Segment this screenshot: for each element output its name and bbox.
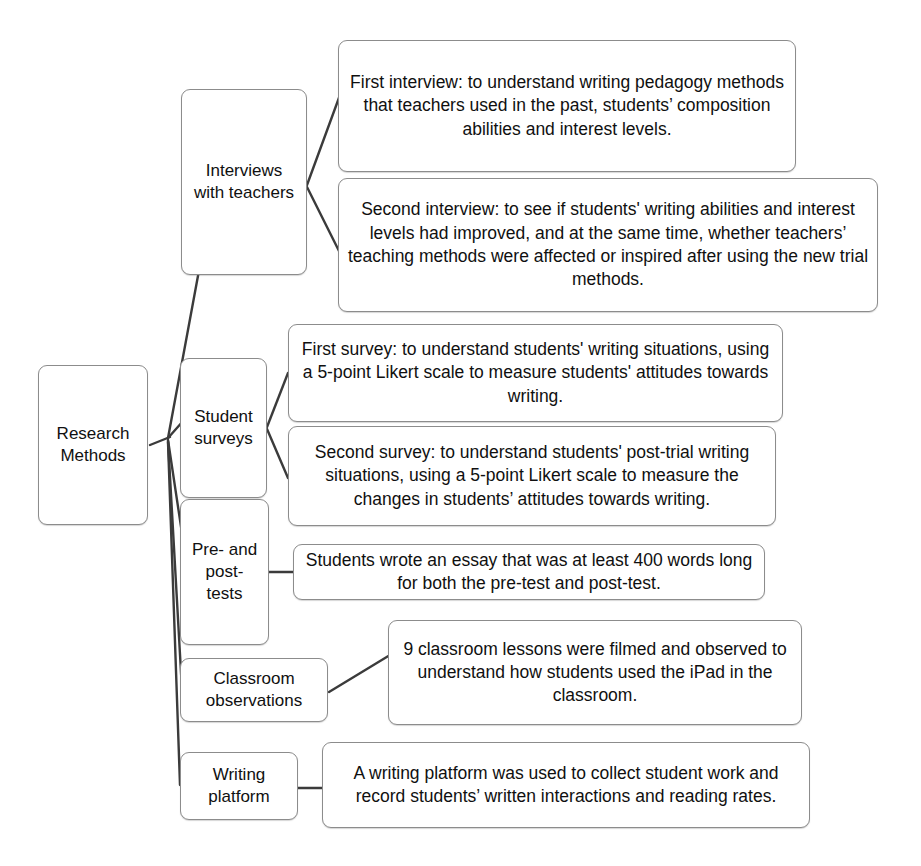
edge-interviews-to-second-interview [307, 187, 340, 253]
node-research-methods-label: Research Methods [46, 423, 140, 467]
node-second-survey[interactable]: Second survey: to understand students' p… [288, 426, 776, 526]
node-classroom-observations[interactable]: Classroom observations [180, 658, 328, 722]
node-first-interview-label: First interview: to understand writing p… [346, 71, 788, 141]
node-student-surveys-label: Student surveys [188, 406, 259, 450]
node-writing-platform-description-label: A writing platform was used to collect s… [330, 762, 802, 809]
node-pre-post-test-description[interactable]: Students wrote an essay that was at leas… [293, 544, 765, 600]
node-interviews-with-teachers[interactable]: Interviews with teachers [181, 89, 307, 275]
node-first-survey-label: First survey: to understand students' wr… [296, 338, 775, 408]
node-first-survey[interactable]: First survey: to understand students' wr… [288, 324, 783, 422]
edge-surveys-to-second-survey [267, 429, 288, 478]
node-pre-post-test-description-label: Students wrote an essay that was at leas… [301, 549, 757, 596]
edge-root-hub [150, 437, 170, 445]
research-methods-diagram: Research Methods Interviews with teacher… [0, 0, 921, 866]
node-classroom-observations-description[interactable]: 9 classroom lessons were filmed and obse… [388, 620, 802, 725]
node-classroom-observations-description-label: 9 classroom lessons were filmed and obse… [396, 638, 794, 708]
edge-root-to-writing-platform [168, 442, 180, 785]
node-interviews-with-teachers-label: Interviews with teachers [189, 160, 299, 204]
node-research-methods[interactable]: Research Methods [38, 365, 148, 525]
node-writing-platform-label: Writing platform [188, 764, 290, 808]
node-writing-platform[interactable]: Writing platform [180, 752, 298, 820]
edge-interviews-to-first-interview [307, 95, 340, 185]
node-pre-and-post-tests[interactable]: Pre- and post- tests [180, 499, 269, 645]
node-writing-platform-description[interactable]: A writing platform was used to collect s… [322, 742, 810, 828]
node-second-interview-label: Second interview: to see if students' wr… [346, 198, 870, 291]
node-second-interview[interactable]: Second interview: to see if students' wr… [338, 178, 878, 312]
edge-observations-to-description [329, 655, 390, 692]
edge-surveys-to-first-survey [267, 373, 288, 427]
node-student-surveys[interactable]: Student surveys [180, 358, 267, 498]
node-first-interview[interactable]: First interview: to understand writing p… [338, 40, 796, 172]
node-classroom-observations-label: Classroom observations [188, 668, 320, 712]
node-pre-and-post-tests-label: Pre- and post- tests [188, 539, 261, 604]
node-second-survey-label: Second survey: to understand students' p… [296, 441, 768, 511]
